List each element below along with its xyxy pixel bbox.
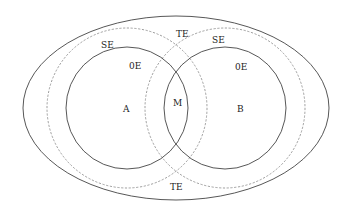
label-te-top: TE bbox=[176, 29, 189, 39]
label-te-bottom: TE bbox=[170, 182, 183, 192]
label-a: A bbox=[122, 104, 130, 114]
label-oe-left: 0E bbox=[129, 61, 141, 71]
label-b: B bbox=[237, 104, 244, 114]
label-se-left: SE bbox=[101, 40, 114, 50]
se-circle-b bbox=[145, 28, 305, 188]
label-oe-right: 0E bbox=[235, 62, 247, 72]
label-m: M bbox=[173, 98, 182, 108]
venn-diagram: SE 0E A M B TE SE 0E TE bbox=[0, 0, 347, 218]
label-se-right: SE bbox=[212, 35, 225, 45]
outer-ellipse bbox=[23, 16, 329, 200]
circle-b bbox=[164, 47, 286, 169]
